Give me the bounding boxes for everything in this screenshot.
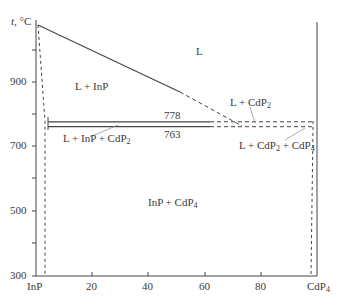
liquidus-inp-line [38,25,180,92]
phase-diagram-plot [0,0,342,306]
inp-solidus-dashed [38,25,45,276]
isotherm-763-label: 763 [164,129,181,140]
y-tick-900: 900 [10,76,27,87]
region-l-cdp2: L + CdP2 [230,97,271,110]
x-label-cdp4: CdP4 [307,281,330,294]
region-liquid: L [196,46,203,57]
y-tick-300: 300 [10,270,27,281]
x-tick-80: 80 [255,281,266,292]
y-axis-label: t, °C [11,16,31,27]
y-tick-700: 700 [10,140,27,151]
y-tick-500: 500 [10,205,27,216]
x-tick-40: 40 [142,281,153,292]
x-label-inp: InP [27,281,42,292]
x-tick-60: 60 [199,281,210,292]
isotherm-778-label: 778 [164,110,181,121]
region-l-inp-cdp2: L + InP + CdP2 [63,133,131,146]
x-tick-20: 20 [86,281,97,292]
region-inp-cdp4: InP + CdP4 [148,197,198,210]
y-ticks [32,50,36,276]
x-ticks [92,272,261,276]
region-l-cdp2-cdp4: L + CdP2 + CdP4 [239,140,315,153]
region-l-inp: L + InP [75,81,108,92]
